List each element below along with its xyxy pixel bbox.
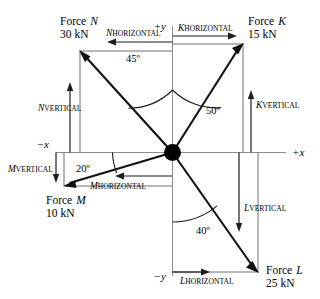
force-K-vector-shaft (173, 49, 239, 153)
force-K-vertical-component-label: KVERTICAL (255, 100, 300, 110)
force-N-horizontal-component-arrowhead (107, 39, 116, 46)
force-K-angle-label: 50º (206, 105, 221, 116)
force-N-angle-label: 45º (126, 53, 141, 64)
force-M-magnitude: 10 kN (46, 207, 75, 219)
force-M-vertical-component-arrowhead (53, 174, 59, 183)
force-L-vertical-component-arrowhead (236, 223, 242, 232)
force-L-vertical-component-label: LVERTICAL (243, 203, 287, 213)
force-diagram-container: −x +x +y −y (0, 0, 320, 299)
force-N-vertical-component-arrowhead (67, 82, 73, 91)
axis-label-negative-x: −x (37, 138, 49, 150)
force-M-title: ForceM (46, 194, 87, 206)
force-N-title: ForceN (60, 15, 99, 27)
force-L-angle-label: 40º (196, 225, 211, 236)
force-N-angle-arc (128, 90, 172, 108)
force-K-horizontal-component-label: KHORIZONTAL (177, 23, 233, 33)
force-M-angle-label: 20º (76, 163, 91, 174)
force-vector-N-group (67, 39, 173, 153)
origin-point (164, 144, 181, 161)
force-L-title: ForceL (266, 264, 303, 276)
force-M-vertical-component-label: MVERTICAL (7, 164, 53, 174)
force-M-arrowhead (63, 181, 77, 188)
force-vector-K-group (173, 33, 255, 153)
force-K-horizontal-component-arrowhead (228, 33, 237, 40)
force-L-horizontal-component-arrowhead (201, 269, 210, 276)
force-K-title: ForceK (248, 15, 287, 27)
force-M-horizontal-component-label: MHORIZONTAL (89, 181, 146, 191)
axis-label-positive-x: +x (292, 146, 304, 158)
force-L-magnitude: 25 kN (266, 277, 295, 289)
force-N-vector-shaft (85, 56, 173, 153)
axis-label-negative-y: −y (154, 270, 166, 282)
force-K-arrowhead (232, 43, 244, 55)
force-K-vertical-component-arrowhead (248, 90, 254, 99)
force-K-magnitude: 15 kN (248, 28, 277, 40)
force-L-horizontal-component-label: LHORIZONTAL (179, 276, 234, 286)
force-N-vertical-component-label: NVERTICAL (37, 103, 82, 113)
force-L-angle-arc (173, 206, 218, 222)
force-L-arrowhead (246, 261, 259, 273)
force-M-horizontal-component-arrowhead (115, 173, 124, 180)
force-N-magnitude: 30 kN (60, 28, 89, 40)
force-L-vector-shaft (173, 153, 254, 268)
force-vector-L-group (173, 153, 260, 276)
force-vector-diagram: −x +x +y −y (0, 0, 320, 299)
force-N-horizontal-component-label: NHORIZONTAL (105, 28, 161, 38)
